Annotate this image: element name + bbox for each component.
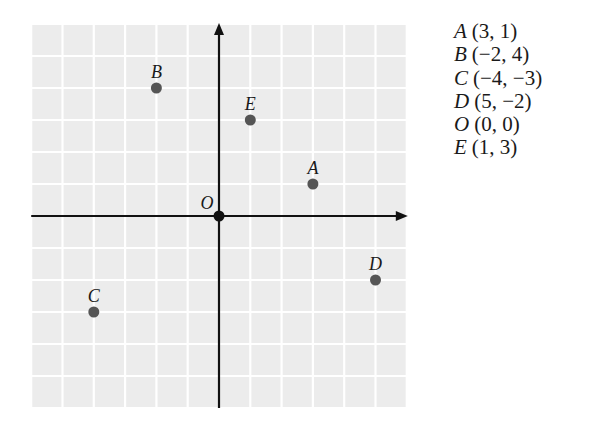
point-marker [370, 275, 381, 286]
point-label: D [368, 254, 382, 274]
legend-coords: (0, 0) [474, 112, 520, 136]
legend-row-a: A(3, 1) [454, 20, 542, 43]
legend-row-c: C(−4, −3) [454, 67, 542, 90]
point-marker [307, 179, 318, 190]
legend-coords: (5, −2) [474, 89, 531, 113]
point-marker [214, 211, 225, 222]
point-marker [151, 83, 162, 94]
point-label: O [201, 193, 214, 213]
point-label: B [151, 62, 162, 82]
legend-label: O [454, 112, 469, 136]
coordinate-legend: A(3, 1) B(−2, 4) C(−4, −3) D(5, −2) O(0,… [454, 20, 542, 160]
legend-label: A [454, 19, 467, 43]
legend-label: E [454, 135, 467, 159]
point-label: A [306, 158, 319, 178]
legend-coords: (1, 3) [472, 135, 518, 159]
legend-row-d: D(5, −2) [454, 90, 542, 113]
legend-coords: (−4, −3) [473, 66, 542, 90]
legend-row-o: O(0, 0) [454, 113, 542, 136]
legend-row-b: B(−2, 4) [454, 43, 542, 66]
legend-coords: (−2, 4) [472, 42, 529, 66]
point-d: D [368, 254, 382, 286]
point-marker [245, 115, 256, 126]
point-marker [88, 307, 99, 318]
point-a: A [306, 158, 319, 190]
legend-label: B [454, 42, 467, 66]
point-e: E [244, 94, 256, 126]
point-label: C [88, 286, 101, 306]
point-label: E [244, 94, 256, 114]
legend-label: C [454, 66, 468, 90]
legend-coords: (3, 1) [472, 19, 518, 43]
point-b: B [151, 62, 162, 94]
point-c: C [88, 286, 101, 318]
legend-row-e: E(1, 3) [454, 136, 542, 159]
legend-label: D [454, 89, 469, 113]
